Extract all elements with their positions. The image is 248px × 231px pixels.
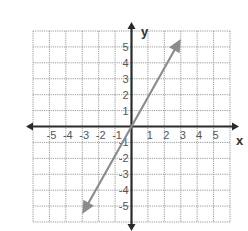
- y-tick-label: -5: [119, 200, 129, 212]
- x-tick-label: -2: [96, 129, 106, 141]
- y-axis-down-arrow-icon: [128, 224, 136, 231]
- y-tick-label: 1: [122, 105, 128, 117]
- x-axis-right-arrow-icon: [232, 123, 239, 131]
- y-tick-label: 2: [122, 89, 128, 101]
- x-axis-label: x: [236, 133, 244, 148]
- y-tick-label: -3: [119, 168, 129, 180]
- x-tick-label: 1: [147, 129, 153, 141]
- x-axis-left-arrow-icon: [26, 123, 33, 131]
- y-tick-label: 5: [122, 41, 128, 53]
- x-tick-label: 3: [180, 129, 186, 141]
- y-axis-up-arrow-icon: [128, 22, 136, 29]
- x-tick-label: 2: [163, 129, 169, 141]
- x-tick-label: 4: [196, 129, 202, 141]
- y-axis-label: y: [141, 24, 149, 39]
- y-tick-label: -2: [119, 152, 129, 164]
- x-tick-label: -5: [47, 129, 57, 141]
- x-tick-label: -3: [79, 129, 89, 141]
- y-tick-label: 4: [122, 57, 128, 69]
- y-tick-label: 3: [122, 73, 128, 85]
- coordinate-plane: -5-4-3-2-112345-5-4-3-2-112345 x y: [0, 0, 248, 231]
- x-tick-label: -4: [63, 129, 73, 141]
- x-tick-label: 5: [213, 129, 219, 141]
- y-tick-label: -4: [119, 184, 129, 196]
